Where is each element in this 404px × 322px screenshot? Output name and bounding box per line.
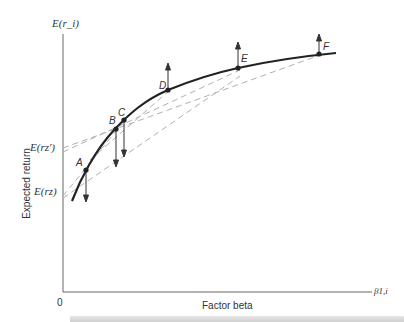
efficient-frontier-diagram — [0, 0, 404, 322]
dashed-lines — [63, 55, 320, 198]
point-label-b: B — [109, 115, 116, 126]
point-label-e: E — [241, 53, 248, 64]
point-label-a: A — [76, 157, 83, 168]
tick-rz: E(rz) — [34, 185, 57, 197]
y-axis-title: E(r_i) — [52, 17, 79, 29]
page-edge-shadow — [70, 316, 404, 322]
x-axis-symbol: β1,i — [374, 286, 388, 296]
origin-label: 0 — [57, 297, 63, 308]
x-axis-label: Factor beta — [202, 300, 253, 311]
point-label-d: D — [159, 80, 166, 91]
frontier-curve — [72, 53, 336, 201]
y-axis-label: Expected return — [21, 144, 32, 224]
point-label-c: C — [118, 107, 125, 118]
tick-rz-prime: E(rz') — [30, 141, 55, 153]
point-label-f: F — [323, 41, 329, 52]
